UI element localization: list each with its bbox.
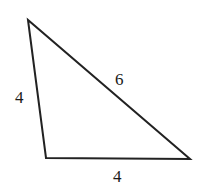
triangle-diagram: 4 6 4 [0,0,198,188]
triangle-shape [28,20,190,159]
triangle-svg: 4 6 4 [0,0,198,188]
hypotenuse-label: 6 [115,70,124,89]
left-side-label: 4 [15,88,24,107]
bottom-side-label: 4 [113,167,122,186]
